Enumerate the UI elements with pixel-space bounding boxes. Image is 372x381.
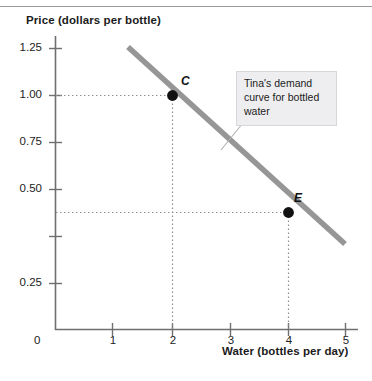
- x-tick-label-1: 1: [103, 334, 123, 346]
- y-tick-label-100: 1.00: [8, 88, 42, 100]
- y-tick-label-025: 0.25: [8, 276, 42, 288]
- origin-label: 0: [34, 334, 40, 346]
- demand-curve-annotation: Tina's demand curve for bottled water: [236, 71, 337, 126]
- x-axis-title: Water (bottles per day): [222, 345, 348, 357]
- annotation-line-3: water: [244, 105, 330, 119]
- x-tick-label-4: 4: [279, 334, 299, 346]
- data-point-label-e: E: [294, 191, 302, 205]
- y-tick-label-050: 0.50: [8, 182, 42, 194]
- chart-figure: Price (dollars per bottle) Water (bottle…: [0, 0, 372, 381]
- chart-canvas: [0, 0, 372, 381]
- x-tick-label-2: 2: [163, 334, 183, 346]
- annotation-line-2: curve for bottled: [244, 91, 330, 105]
- data-point-c: [167, 90, 178, 101]
- guide-lines: [56, 96, 289, 330]
- x-tick-label-3: 3: [221, 334, 241, 346]
- data-point-e: [283, 207, 294, 218]
- y-axis-title: Price (dollars per bottle): [26, 14, 161, 26]
- y-tick-label-125: 1.25: [8, 41, 42, 53]
- data-point-label-c: C: [181, 74, 190, 88]
- x-tick-label-5: 5: [336, 334, 356, 346]
- annotation-line-1: Tina's demand: [244, 77, 330, 91]
- y-tick-label-075: 0.75: [8, 135, 42, 147]
